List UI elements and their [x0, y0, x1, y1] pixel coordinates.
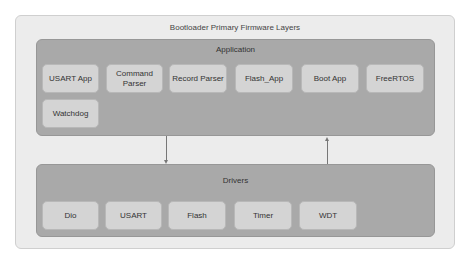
component-record-parser: Record Parser — [169, 64, 227, 93]
drivers-layer-title: Drivers — [37, 176, 434, 185]
component-usart-app: USART App — [42, 64, 99, 93]
arrow-drivers-to-app — [327, 141, 328, 164]
component-command-parser: Command Parser — [106, 64, 163, 93]
component-watchdog: Watchdog — [42, 99, 99, 128]
component-timer: Timer — [234, 201, 292, 230]
component-flash: Flash — [168, 201, 226, 230]
component-usart: USART — [105, 201, 162, 230]
component-wdt: WDT — [299, 201, 357, 230]
component-flash-app: Flash_App — [235, 64, 293, 93]
application-layer-title: Application — [37, 45, 434, 54]
component-boot-app: Boot App — [301, 64, 359, 93]
arrow-app-to-drivers — [166, 136, 167, 160]
diagram-title: Bootloader Primary Firmware Layers — [16, 23, 454, 32]
component-freertos: FreeRTOS — [366, 64, 424, 93]
component-dio: Dio — [42, 201, 99, 230]
